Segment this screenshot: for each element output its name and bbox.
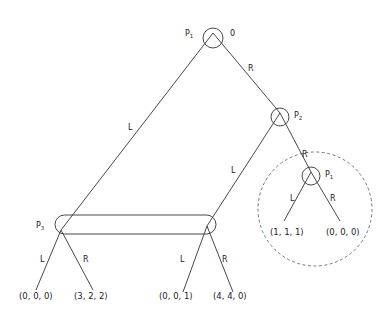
label-root-annotation: 0 [230, 29, 235, 38]
edge-p3b-right [207, 226, 233, 292]
label-edge-p2-right: R [302, 150, 308, 159]
label-p1-inner-player: P1 [325, 170, 333, 180]
payoff-p3a-left: (0, 0, 0) [19, 291, 53, 301]
label-edge-p1-left: L [290, 194, 295, 203]
information-set-p3 [55, 215, 216, 234]
label-edge-p3b-right: R [222, 255, 228, 264]
label-edge-p1-right: R [330, 194, 336, 203]
label-edge-root-right: R [248, 64, 254, 73]
payoff-p3b-right: (4, 4, 0) [213, 291, 247, 301]
label-edge-root-left: L [128, 123, 133, 132]
payoff-p3b-left: (0, 0, 1) [159, 291, 193, 301]
node-p1-inner [302, 167, 320, 185]
edge-p1-right [311, 172, 340, 221]
payoff-p1-right: (0, 0, 0) [326, 227, 360, 237]
game-tree: P1 0 P2 P1 P3 L R L R L R L R L R (0, 0,… [0, 0, 387, 320]
edge-p3b-left [183, 226, 207, 292]
label-edge-p2-left: L [231, 166, 236, 175]
payoff-p1-left: (1, 1, 1) [270, 227, 304, 237]
subgame-boundary [258, 152, 372, 266]
payoff-p3a-right: (3, 2, 2) [74, 291, 108, 301]
node-root [203, 28, 223, 48]
label-p2-player: P2 [294, 111, 302, 121]
label-root-player: P1 [185, 29, 193, 39]
edge-p2-right [280, 113, 311, 172]
edge-p2-left [207, 113, 280, 226]
label-edge-p3a-left: L [40, 255, 45, 264]
node-p2 [271, 108, 289, 126]
label-edge-p3b-left: L [180, 255, 185, 264]
edge-root-right [213, 33, 280, 113]
label-edge-p3a-right: R [83, 255, 89, 264]
edge-p1-left [284, 172, 311, 221]
edge-root-left [61, 33, 213, 230]
label-p3-player: P3 [36, 221, 45, 231]
